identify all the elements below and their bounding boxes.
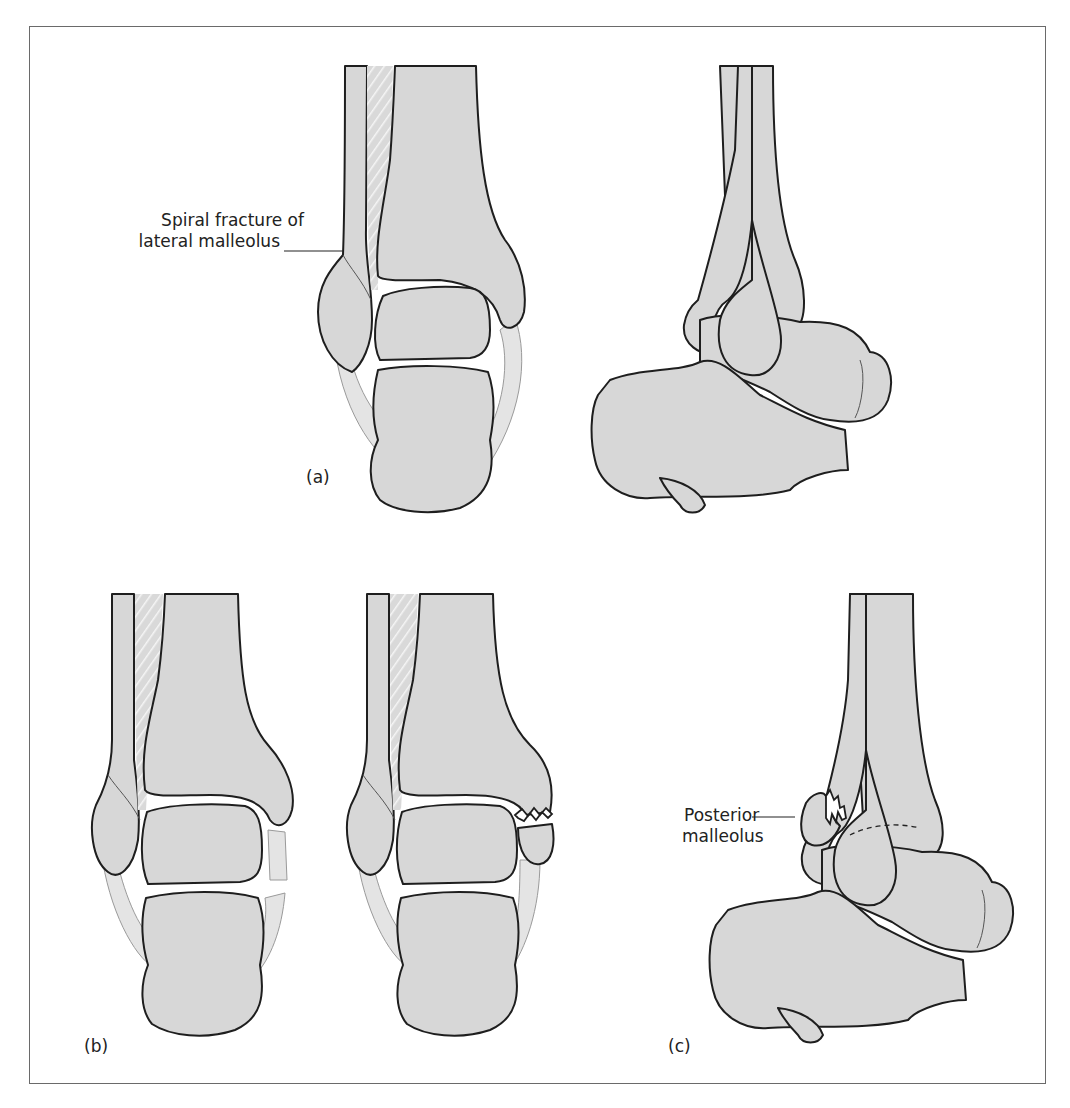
talus: [375, 287, 490, 360]
calcaneus: [371, 366, 494, 512]
panel-label-a: (a): [306, 467, 330, 487]
annotation-posterior-malleolus-line2: malleolus: [682, 826, 764, 847]
panel-a-anterior-view: [318, 66, 525, 512]
annotation-posterior-malleolus: Posterior malleolus: [682, 805, 764, 847]
panel-b-left-view: [92, 594, 293, 1036]
panel-label-c: (c): [668, 1036, 691, 1056]
annotation-spiral-fracture-line1: Spiral fracture of: [112, 210, 342, 231]
annotation-spiral-fracture: Spiral fracture of lateral malleolus: [112, 210, 342, 252]
annotation-posterior-malleolus-line1: Posterior: [682, 805, 764, 826]
annotation-spiral-fracture-line2: lateral malleolus: [112, 231, 342, 252]
panel-label-b: (b): [84, 1036, 108, 1056]
panel-a-lateral-view: [592, 66, 891, 513]
ankle-fracture-illustration: [0, 0, 1070, 1108]
panel-b-right-view: [347, 594, 554, 1036]
